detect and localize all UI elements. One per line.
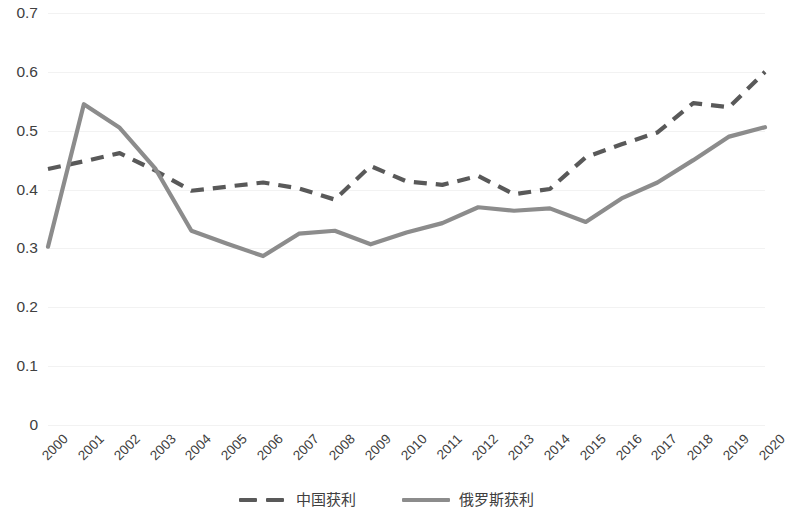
legend-item-china[interactable]: 中国获利 [239, 492, 356, 507]
y-axis-tick-label: 0.5 [0, 123, 38, 139]
y-axis-tick-label: 0.6 [0, 64, 38, 80]
gridline [48, 190, 765, 191]
gridline [48, 366, 765, 367]
legend-label-china: 中国获利 [296, 492, 356, 507]
gridline [48, 248, 765, 249]
plot-area [48, 13, 765, 425]
y-axis-tick-label: 0.4 [0, 182, 38, 198]
gridline [48, 131, 765, 132]
y-axis-tick-label: 0.2 [0, 300, 38, 316]
y-axis-tick-label: 0.7 [0, 5, 38, 21]
gridline [48, 425, 765, 426]
legend-item-russia[interactable]: 俄罗斯获利 [402, 492, 534, 507]
solid-line-icon [402, 498, 450, 502]
dashed-line-icon [239, 498, 287, 502]
chart-legend: 中国获利 俄罗斯获利 [0, 492, 772, 507]
legend-label-russia: 俄罗斯获利 [459, 492, 534, 507]
gridline [48, 307, 765, 308]
y-axis-tick-label: 0 [0, 417, 38, 433]
gridline [48, 72, 765, 73]
gridline [48, 13, 765, 14]
y-axis-tick-label: 0.1 [0, 358, 38, 374]
y-axis-tick-label: 0.3 [0, 241, 38, 257]
